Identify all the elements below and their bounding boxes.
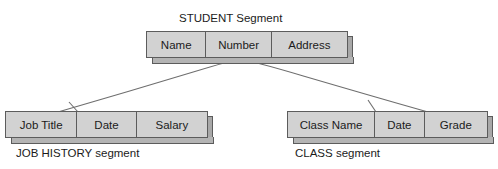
connector-to-class <box>240 59 428 112</box>
field-cell-number[interactable]: Number <box>206 32 271 57</box>
student-box-bottom-shade <box>152 57 354 64</box>
diagram-canvas: STUDENT Segment Name Number Address Job … <box>0 0 498 169</box>
class-segment-caption: CLASS segment <box>295 147 380 159</box>
student-segment-title: STUDENT Segment <box>179 12 282 24</box>
job-history-segment-caption: JOB HISTORY segment <box>16 147 139 159</box>
field-cell-date[interactable]: Date <box>77 112 136 137</box>
field-cell-address[interactable]: Address <box>272 32 347 57</box>
student-field-row: Name Number Address <box>146 31 348 58</box>
field-cell-class-name[interactable]: Class Name <box>288 112 375 137</box>
class-field-row: Class Name Date Grade <box>287 111 488 138</box>
field-cell-job-title[interactable]: Job Title <box>6 112 77 137</box>
job-history-box-bottom-shade <box>11 137 214 144</box>
field-cell-name[interactable]: Name <box>147 32 206 57</box>
connector-to-job-history <box>58 59 240 112</box>
job-history-field-row: Job Title Date Salary <box>5 111 208 138</box>
class-box-bottom-shade <box>293 137 494 144</box>
field-cell-grade[interactable]: Grade <box>425 112 487 137</box>
field-cell-salary[interactable]: Salary <box>137 112 207 137</box>
field-cell-date[interactable]: Date <box>375 112 425 137</box>
